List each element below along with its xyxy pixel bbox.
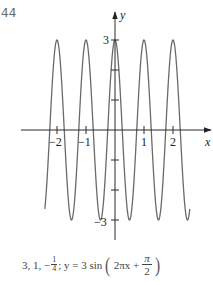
caption-equation: ; y = 3 sin bbox=[58, 259, 102, 271]
fraction-pi-over-2: π 2 bbox=[142, 252, 152, 277]
y-tick-label-3: 3 bbox=[103, 33, 109, 47]
x-tick-label-2: 2 bbox=[170, 135, 176, 149]
x-tick-label-neg1: −1 bbox=[78, 135, 91, 149]
caption: 3, 1, − 1 4 ; y = 3 sin ( 2πx + π 2 ) bbox=[22, 252, 163, 277]
fraction-one-quarter: 1 4 bbox=[51, 256, 57, 273]
y-axis-label: y bbox=[119, 8, 126, 22]
x-axis-label: x bbox=[204, 135, 211, 149]
y-tick-label-neg3: −3 bbox=[94, 215, 107, 229]
caption-inner: 2πx + bbox=[114, 259, 140, 271]
left-paren: ( bbox=[105, 254, 110, 276]
right-paren: ) bbox=[155, 254, 160, 276]
x-tick-label-neg2: −2 bbox=[49, 135, 62, 149]
sine-graph: y x 3 −3 −2 −1 1 2 bbox=[0, 0, 213, 285]
caption-values: 3, 1, − bbox=[22, 259, 50, 271]
x-tick-label-1: 1 bbox=[141, 135, 147, 149]
